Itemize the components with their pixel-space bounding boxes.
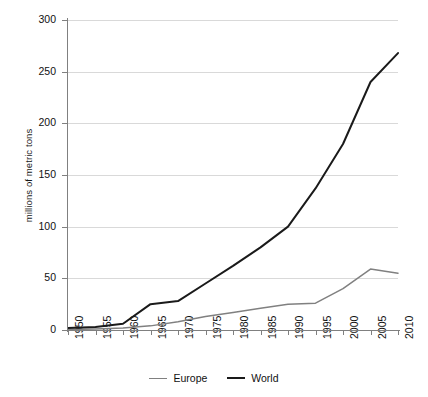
y-tick-label: 250 [16, 66, 56, 77]
y-tick-label: 150 [16, 169, 56, 180]
y-tick-label: 0 [16, 324, 56, 335]
legend-label-europe: Europe [173, 372, 207, 384]
line-swatch-world-icon [227, 377, 245, 379]
series-line-europe [68, 269, 398, 329]
series-layer [68, 20, 400, 332]
chart-legend: Europe World [0, 372, 428, 384]
legend-item-world: World [227, 372, 278, 384]
series-line-world [68, 53, 398, 328]
line-chart: millions of metric tons 0501001502002503… [0, 0, 428, 397]
y-tick-label: 50 [16, 272, 56, 283]
y-tick-label: 200 [16, 117, 56, 128]
y-tick-label: 300 [16, 14, 56, 25]
x-tick-label: 2010 [403, 305, 415, 339]
line-swatch-europe-icon [149, 378, 167, 379]
y-tick-label: 100 [16, 221, 56, 232]
legend-label-world: World [251, 372, 278, 384]
legend-item-europe: Europe [149, 372, 207, 384]
